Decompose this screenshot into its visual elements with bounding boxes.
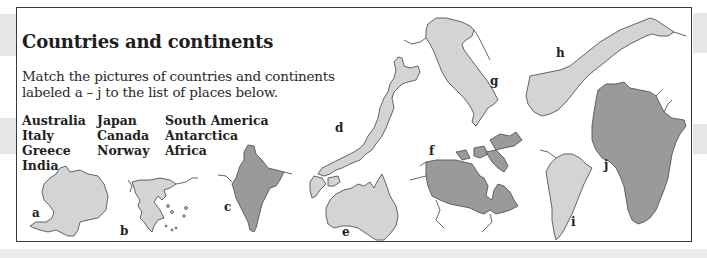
map-illustrations [0, 0, 707, 258]
map-japan-icon [318, 57, 420, 176]
map-label-i: i [571, 215, 576, 229]
map-south-america-icon [546, 154, 592, 240]
map-label-d: d [335, 121, 343, 135]
map-africa-icon [592, 82, 686, 224]
map-antarctica-icon [30, 166, 108, 236]
map-label-c: c [224, 200, 231, 214]
map-label-e: e [342, 225, 350, 239]
map-label-a: a [32, 206, 40, 220]
map-label-h: h [556, 46, 565, 60]
map-italy-icon [426, 18, 498, 126]
map-label-b: b [120, 224, 128, 238]
map-india-icon [232, 145, 284, 232]
map-label-f: f [429, 144, 434, 158]
map-label-j: j [604, 158, 608, 172]
map-label-g: g [490, 74, 498, 88]
